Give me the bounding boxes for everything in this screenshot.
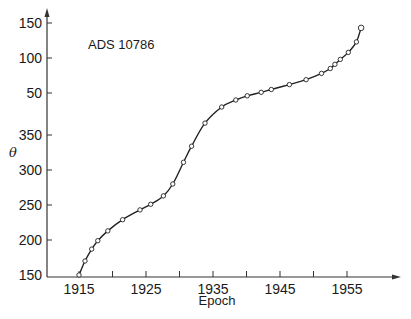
fitted-orbit-curve bbox=[79, 28, 361, 275]
data-point-marker bbox=[171, 182, 175, 186]
y-axis-label: θ bbox=[9, 145, 17, 160]
data-point-marker bbox=[354, 40, 358, 44]
data-point-marker bbox=[319, 71, 323, 75]
data-point-marker bbox=[259, 90, 263, 94]
x-tick-label: 1945 bbox=[264, 281, 295, 297]
data-point-marker bbox=[77, 273, 81, 277]
data-point-marker bbox=[161, 194, 165, 198]
data-point-marker bbox=[106, 229, 110, 233]
data-point-marker bbox=[181, 160, 185, 164]
y-tick-label: 100 bbox=[19, 50, 43, 66]
data-point-marker bbox=[346, 50, 350, 54]
data-point-marker bbox=[96, 239, 100, 243]
y-tick-label: 350 bbox=[19, 127, 43, 143]
data-point-marker bbox=[304, 78, 308, 82]
data-point-marker bbox=[287, 82, 291, 86]
x-tick-label: 1915 bbox=[63, 281, 94, 297]
data-point-marker bbox=[189, 144, 193, 148]
data-point-marker bbox=[138, 208, 142, 212]
data-point-marker bbox=[358, 25, 364, 31]
x-axis-arrow-icon bbox=[392, 275, 401, 280]
data-point-marker bbox=[90, 247, 94, 251]
data-point-marker bbox=[203, 121, 207, 125]
y-tick-label: 300 bbox=[19, 162, 43, 178]
data-point-marker bbox=[83, 259, 87, 263]
data-point-marker bbox=[245, 94, 249, 98]
data-points bbox=[77, 25, 364, 277]
data-point-marker bbox=[328, 66, 332, 70]
y-axis-arrow-icon bbox=[45, 8, 50, 17]
x-axis-label: Epoch bbox=[199, 293, 236, 308]
x-tick-label: 1955 bbox=[331, 281, 362, 297]
y-tick-label: 250 bbox=[19, 197, 43, 213]
data-point-marker bbox=[149, 202, 153, 206]
data-point-marker bbox=[338, 57, 342, 61]
orbit-position-angle-chart: 15020025030035050100150 1915192519351945… bbox=[0, 0, 411, 319]
y-tick-label: 50 bbox=[26, 85, 42, 101]
data-point-marker bbox=[120, 218, 124, 222]
y-tick-label: 150 bbox=[19, 15, 43, 31]
chart-annotation: ADS 10786 bbox=[88, 37, 155, 52]
x-tick-label: 1925 bbox=[130, 281, 161, 297]
data-point-marker bbox=[269, 87, 273, 91]
data-point-marker bbox=[333, 62, 337, 66]
y-tick-label: 200 bbox=[19, 232, 43, 248]
y-tick-label: 150 bbox=[19, 267, 43, 283]
data-point-marker bbox=[234, 98, 238, 102]
data-point-marker bbox=[220, 105, 224, 109]
